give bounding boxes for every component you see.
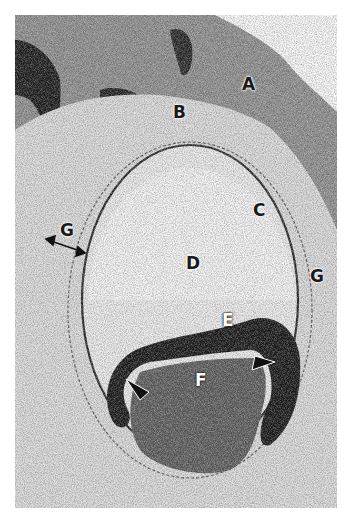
label-A: A xyxy=(242,76,255,93)
label-E: E xyxy=(222,312,234,329)
label-D: D xyxy=(186,255,200,272)
label-G-right: G xyxy=(310,268,324,285)
label-G-left: G xyxy=(60,222,74,239)
tissue-drawing xyxy=(15,15,337,508)
label-F: F xyxy=(195,372,207,389)
label-C: C xyxy=(253,202,265,219)
label-B: B xyxy=(173,104,186,121)
micrograph xyxy=(15,15,337,508)
